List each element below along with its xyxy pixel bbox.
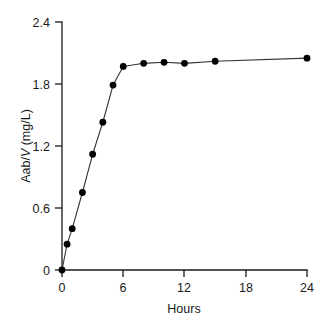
data-point [99,119,106,126]
svg-text:Aab/V (mg/L): Aab/V (mg/L) [19,109,33,183]
data-point [79,189,86,196]
y-tick-label-4: 2.4 [33,16,50,30]
y-axis-ticks [55,22,62,270]
data-point [89,151,96,158]
data-point [212,58,219,65]
data-point [64,241,71,248]
y-tick-label-1: 0.6 [33,202,50,216]
data-point [140,60,147,67]
x-tick-label-3: 18 [239,281,253,295]
y-axis-title: Aab/V (mg/L) [19,109,33,183]
data-point [120,63,127,70]
series-markers [59,55,311,274]
chart-figure: 2.4 1.8 1.2 0.6 0 0 6 12 18 24 Hours Aab… [0,0,328,330]
x-tick-label-0: 0 [59,281,66,295]
line-chart: 2.4 1.8 1.2 0.6 0 0 6 12 18 24 Hours Aab… [0,0,328,330]
y-tick-label-3: 1.8 [33,78,50,92]
x-tick-label-4: 24 [300,281,314,295]
y-tick-label-2: 1.2 [33,140,50,154]
data-point [69,225,76,232]
series-line [62,58,307,270]
data-point [304,55,311,62]
data-point [181,60,188,67]
x-axis-ticks [62,270,307,277]
data-point [59,267,66,274]
x-tick-labels: 0 6 12 18 24 [59,281,314,295]
series-aab-v [59,55,311,274]
y-axis-title-suffix: (mg/L) [19,109,33,149]
x-tick-label-1: 6 [120,281,127,295]
x-tick-label-2: 12 [177,281,191,295]
y-axis-title-prefix: Aab/ [19,157,33,183]
data-point [110,82,117,89]
x-axis-title: Hours [167,302,200,316]
data-point [161,59,168,66]
y-tick-label-0: 0 [43,264,50,278]
y-tick-labels: 2.4 1.8 1.2 0.6 0 [33,16,50,278]
